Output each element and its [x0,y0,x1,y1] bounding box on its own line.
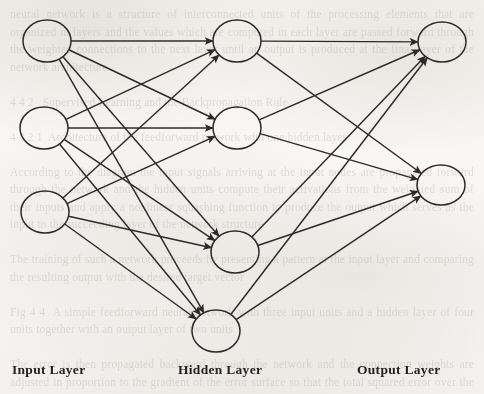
connection-edge [65,224,197,319]
hidden-layer-label: Hidden Layer [178,362,262,378]
hidden-node-2 [213,107,261,149]
neural-network-diagram [0,0,484,394]
connection-edge [63,55,219,198]
connection-edge [59,59,204,313]
connection-edge [259,50,420,120]
scanned-figure-page: neural network is a structure of interco… [0,0,484,394]
output-layer-label: Output Layer [357,362,440,378]
connection-edge [257,53,422,173]
output-node-1 [418,22,466,62]
input-node-3 [21,191,69,233]
connection-edge [64,139,215,240]
connection-edge [236,196,421,320]
hidden-node-3 [211,231,259,273]
neuron-nodes [20,20,466,352]
output-node-2 [417,165,465,205]
hidden-node-1 [213,20,261,62]
connection-edge [258,191,418,245]
connection-edges [59,41,427,320]
hidden-node-4 [192,310,240,352]
connection-edge [261,41,418,42]
input-layer-label: Input Layer [12,362,85,378]
connection-edge [231,58,427,315]
input-node-2 [20,107,68,149]
input-node-1 [23,20,71,62]
